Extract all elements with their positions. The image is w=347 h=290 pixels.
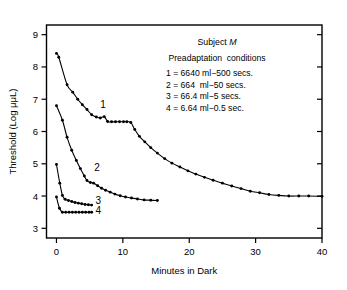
data-point-series-1 [138,135,141,138]
data-point-series-2 [79,167,82,170]
data-point-series-2 [124,196,127,199]
subject-symbol: M [229,37,237,47]
data-point-series-2 [66,136,69,139]
curve-3 [56,164,91,205]
data-point-series-1 [99,117,102,120]
data-point-series-1 [125,120,128,123]
subject-line: Subject M [197,37,237,47]
data-point-series-2 [55,104,58,107]
y-tick-label: 4 [33,191,38,202]
data-point-series-1 [267,193,270,196]
data-point-series-1 [240,187,243,190]
data-point-series-1 [171,162,174,165]
data-point-series-4 [88,211,91,214]
x-tick-label: 10 [118,246,129,257]
curve-label-2: 2 [94,162,100,173]
data-point-series-1 [163,157,166,160]
data-point-series-2 [83,175,86,178]
data-point-series-3 [87,203,90,206]
curve-label-4: 4 [95,205,101,216]
y-tick-label: 5 [33,158,38,169]
data-point-series-1 [212,179,215,182]
data-point-series-2 [96,184,99,187]
data-point-series-1 [81,103,84,106]
y-tick-label: 6 [33,126,38,137]
data-point-series-1 [86,108,89,111]
data-point-series-1 [258,191,261,194]
data-point-series-1 [194,173,197,176]
data-point-series-1 [106,120,109,123]
data-point-series-2 [149,199,152,202]
data-point-series-1 [76,98,79,101]
data-point-series-2 [109,191,112,194]
data-point-series-1 [178,166,181,169]
condition-line-1: 1 = 6640 ml−500 secs. [166,68,253,78]
data-point-series-2 [136,198,139,201]
data-point-series-4 [71,211,74,214]
data-point-series-1 [122,120,125,123]
data-point-series-3 [84,203,87,206]
data-point-series-1 [118,120,121,123]
data-point-series-1 [90,113,93,116]
data-point-series-3 [55,163,58,166]
dark-adaptation-chart: 0102030403456789Minutes in DarkThreshold… [0,0,347,290]
data-point-series-1 [95,116,98,119]
y-tick-label: 9 [33,29,38,40]
data-point-series-4 [58,207,61,210]
data-point-series-2 [89,181,92,184]
data-point-series-4 [61,211,64,214]
data-point-series-3 [77,202,80,205]
data-point-series-1 [71,91,74,94]
data-point-series-1 [203,176,206,179]
data-point-series-2 [143,198,146,201]
data-point-series-2 [113,193,116,196]
data-point-series-1 [230,185,233,188]
data-point-series-1 [66,83,69,86]
data-point-series-3 [61,194,64,197]
data-point-series-1 [307,195,310,198]
data-point-series-2 [130,197,133,200]
x-tick-label: 0 [54,246,59,257]
data-point-series-1 [129,121,132,124]
data-point-series-3 [90,204,93,207]
data-point-series-2 [104,189,107,192]
condition-line-3: 3 = 66.4 ml−5 secs. [166,91,241,101]
data-point-series-1 [321,195,324,198]
conditions-heading: Preadaptation conditions [169,53,266,63]
data-point-series-1 [221,182,224,185]
data-point-series-2 [75,159,78,162]
data-point-series-4 [64,211,67,214]
data-point-series-1 [156,152,159,155]
data-point-series-1 [110,120,113,123]
chart-svg: 0102030403456789Minutes in DarkThreshold… [0,0,347,290]
data-point-series-3 [70,200,73,203]
y-tick-label: 3 [33,223,38,234]
data-point-series-4 [55,196,58,199]
x-tick-label: 40 [317,246,328,257]
data-point-series-1 [103,115,106,118]
condition-line-4: 4 = 6.64 ml−0.5 sec. [166,103,244,113]
data-point-series-3 [67,199,70,202]
data-point-series-1 [55,52,58,55]
data-point-series-2 [119,194,122,197]
data-point-series-2 [61,119,64,122]
data-point-series-4 [90,211,93,214]
y-tick-label: 8 [33,61,38,72]
x-tick-label: 30 [250,246,261,257]
y-axis-title: Threshold (Log μμL) [7,89,18,175]
x-tick-label: 20 [184,246,195,257]
curve-label-1: 1 [100,99,106,110]
data-point-series-3 [64,198,67,201]
data-point-series-1 [114,120,117,123]
x-axis-title: Minutes in Dark [151,265,217,276]
data-point-series-1 [287,195,290,198]
data-point-series-1 [149,146,152,149]
data-point-series-2 [86,179,89,182]
data-point-series-4 [68,211,71,214]
data-point-series-3 [80,202,83,205]
data-point-series-2 [92,182,95,185]
data-point-series-1 [297,195,300,198]
data-point-series-1 [133,128,136,131]
data-point-series-2 [156,199,159,202]
data-point-series-3 [74,201,77,204]
